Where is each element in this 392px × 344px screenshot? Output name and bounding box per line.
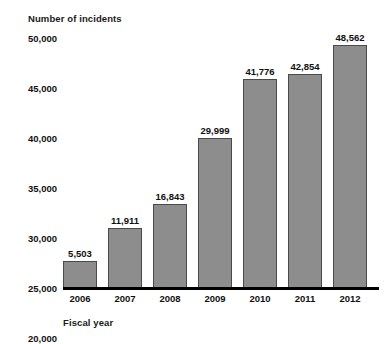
x-axis-tick-label: 2012: [327, 293, 373, 304]
bar-value-label: 29,999: [200, 125, 229, 136]
bar-2008[interactable]: 16,843: [153, 204, 187, 288]
y-axis-tick-label: 35,000: [28, 183, 57, 194]
bar-value-label: 42,854: [290, 61, 319, 72]
y-axis-tick-label: 50,000: [28, 33, 57, 44]
x-axis-tick-label: 2009: [192, 293, 238, 304]
bar-value-label: 48,562: [335, 32, 364, 43]
bar-value-label: 5,503: [68, 248, 92, 259]
y-axis-tick-label: 20,000: [28, 333, 57, 344]
y-gridline: 40,000: [63, 88, 378, 89]
x-axis-title: Fiscal year: [63, 317, 113, 328]
x-axis-line: [63, 287, 379, 290]
bar-2007[interactable]: 11,911: [108, 228, 142, 288]
bar-2010[interactable]: 41,776: [243, 79, 277, 288]
x-axis-tick-label: 2006: [57, 293, 103, 304]
x-axis-tick-label: 2008: [147, 293, 193, 304]
bar-2012[interactable]: 48,562: [333, 45, 367, 288]
x-axis-tick-label: 2010: [237, 293, 283, 304]
bar-chart: Number of incidents 05,00010,00015,00020…: [0, 0, 392, 344]
y-gridline: 45,000: [63, 63, 378, 64]
x-axis-tick-label: 2007: [102, 293, 148, 304]
x-axis-tick-label: 2011: [282, 293, 328, 304]
bar-value-label: 16,843: [155, 191, 184, 202]
y-axis-title: Number of incidents: [28, 13, 122, 24]
bar-2006[interactable]: 5,503: [63, 261, 97, 289]
bar-2009[interactable]: 29,999: [198, 138, 232, 288]
y-axis-tick-label: 30,000: [28, 233, 57, 244]
bar-value-label: 41,776: [245, 66, 274, 77]
y-gridline: 35,000: [63, 113, 378, 114]
y-axis-tick-label: 25,000: [28, 283, 57, 294]
y-axis-tick-label: 40,000: [28, 133, 57, 144]
y-gridline: 50,000: [63, 38, 378, 39]
bar-2011[interactable]: 42,854: [288, 74, 322, 288]
bar-value-label: 11,911: [111, 215, 139, 226]
y-axis-tick-label: 45,000: [28, 83, 57, 94]
plot-area: 05,00010,00015,00020,00025,00030,00035,0…: [63, 38, 378, 288]
